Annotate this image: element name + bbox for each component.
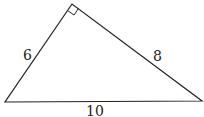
side-label-right: 8 <box>153 48 162 64</box>
triangle <box>5 4 202 102</box>
triangle-diagram: 6 8 10 <box>0 0 204 117</box>
right-angle-marker <box>68 8 79 15</box>
side-label-bottom: 10 <box>86 103 104 117</box>
side-label-left: 6 <box>23 47 32 63</box>
